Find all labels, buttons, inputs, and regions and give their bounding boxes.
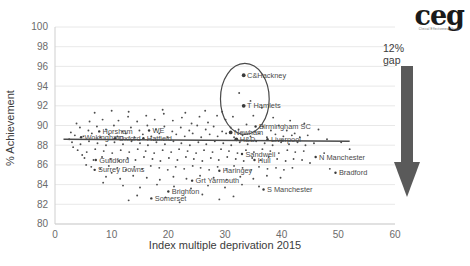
svg-text:98: 98: [37, 41, 49, 52]
svg-text:96: 96: [37, 61, 49, 72]
svg-text:Haringey: Haringey: [223, 166, 253, 175]
svg-text:C&Hackney: C&Hackney: [247, 71, 286, 80]
svg-text:Guildford: Guildford: [99, 156, 129, 165]
logo-subtitle: Clinical Effectiveness Group: [415, 29, 465, 32]
svg-text:10: 10: [106, 229, 118, 240]
svg-text:94: 94: [37, 81, 49, 92]
gap-word-text: gap: [383, 54, 404, 66]
svg-text:86: 86: [37, 159, 49, 170]
svg-text:84: 84: [37, 179, 49, 190]
svg-text:H&D: H&D: [240, 135, 256, 144]
svg-text:Oxford: Oxford: [118, 134, 140, 143]
svg-text:Surrey Downs: Surrey Downs: [98, 165, 145, 174]
svg-text:60: 60: [389, 229, 401, 240]
svg-text:Bradford: Bradford: [339, 168, 367, 177]
svg-text:90: 90: [37, 120, 49, 131]
svg-text:0: 0: [52, 229, 58, 240]
svg-text:Birmingham SC: Birmingham SC: [259, 122, 311, 131]
gap-percent-text: 12%: [383, 42, 404, 54]
svg-text:80: 80: [37, 218, 49, 229]
svg-text:88: 88: [37, 140, 49, 151]
y-axis-title: % Achievement: [4, 90, 16, 166]
svg-text:Grt Yarmouth: Grt Yarmouth: [196, 176, 240, 185]
svg-text:82: 82: [37, 199, 49, 210]
svg-text:Liverpool: Liverpool: [271, 135, 301, 144]
svg-text:WE: WE: [152, 126, 164, 135]
svg-text:T Hamlets: T Hamlets: [247, 101, 281, 110]
svg-text:50: 50: [333, 229, 345, 240]
y-axis-tick-labels: 80828486889092949698100: [31, 21, 48, 229]
svg-text:N Manchester: N Manchester: [319, 153, 366, 162]
svg-text:92: 92: [37, 100, 49, 111]
down-arrow-icon: [394, 66, 420, 198]
data-point-labels: C&HackneyT HamletsBirmingham SCNewhamH&D…: [84, 71, 367, 203]
gap-annotation: 12% gap: [383, 42, 404, 66]
svg-text:Hull: Hull: [258, 156, 271, 165]
svg-text:S Manchester: S Manchester: [267, 185, 313, 194]
svg-text:Brighton: Brighton: [172, 187, 200, 196]
x-axis-title: Index multiple deprivation 2015: [149, 239, 301, 251]
chart-container: 80828486889092949698100 0102030405060 C&…: [0, 0, 470, 266]
logo-wordmark: ceg: [415, 2, 465, 29]
gridlines: [55, 27, 395, 224]
svg-text:Hatfield: Hatfield: [147, 134, 172, 143]
svg-text:100: 100: [31, 21, 48, 32]
ceg-logo: ceg Clinical Effectiveness Group: [415, 2, 465, 32]
